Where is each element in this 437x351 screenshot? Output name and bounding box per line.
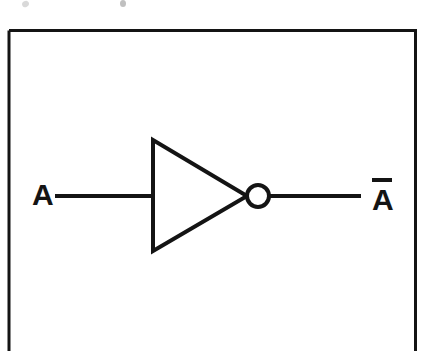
not-gate-diagram — [0, 0, 437, 351]
overbar-icon — [372, 178, 392, 182]
figure-canvas: A A — [0, 0, 437, 351]
output-label: A — [372, 178, 394, 215]
inverter-triangle — [153, 140, 247, 251]
output-label-letter: A — [372, 185, 394, 215]
inversion-bubble-icon — [247, 185, 269, 207]
input-label: A — [32, 180, 54, 210]
